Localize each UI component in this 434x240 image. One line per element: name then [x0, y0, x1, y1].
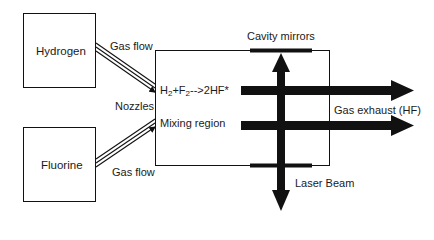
- cavity-mirror-top: [250, 49, 312, 53]
- exhaust-arrow-upper: [241, 80, 414, 101]
- gas-flow-label-top: Gas flow: [110, 40, 153, 52]
- fluorine-label: Fluorine: [41, 159, 83, 171]
- mixing-region-label: Mixing region: [160, 117, 225, 129]
- fluorine-gas-flow-lines: [96, 119, 155, 167]
- gas-exhaust-label: Gas exhaust (HF): [334, 104, 421, 116]
- laser-beam-arrow: [272, 53, 290, 211]
- hydrogen-label: Hydrogen: [36, 45, 86, 57]
- reaction-product: -->2HF*: [190, 84, 229, 96]
- gas-flow-label-bottom: Gas flow: [112, 166, 155, 178]
- reaction-chamber: [156, 51, 330, 166]
- reaction-h: H: [160, 84, 168, 96]
- cavity-mirrors-label: Cavity mirrors: [247, 30, 315, 42]
- reaction-equation: H2+F2-->2HF*: [160, 84, 229, 96]
- reaction-plus-f: +F: [172, 84, 185, 96]
- laser-beam-label: Laser Beam: [295, 177, 354, 189]
- nozzles-label: Nozzles: [115, 100, 154, 112]
- exhaust-arrow-lower: [241, 115, 414, 136]
